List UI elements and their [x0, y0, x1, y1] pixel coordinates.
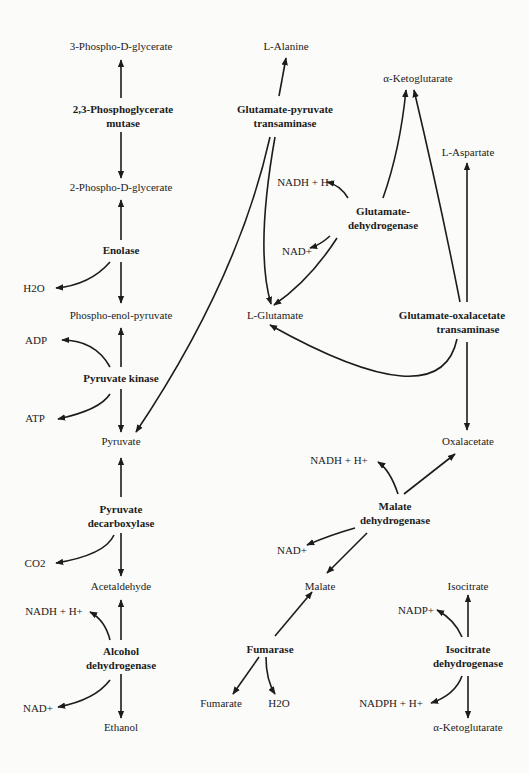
enzyme-fumarase: Fumarase: [246, 643, 293, 656]
compound-2-phosphoglycerate: 2-Phospho-D-glycerate: [70, 181, 173, 194]
compound-ethanol: Ethanol: [104, 721, 138, 734]
compound-nad-gdh: NAD+: [282, 245, 312, 258]
compound-l-glutamate: L-Glutamate: [247, 309, 303, 322]
compound-nadh: NADH + H+: [25, 605, 83, 618]
enzyme-pyruvate-decarboxylase-line2: decarboxylase: [88, 517, 155, 530]
compound-fumarate: Fumarate: [200, 697, 242, 710]
compound-h2o: H2O: [23, 282, 44, 295]
enzyme-glutamate-dehydrogenase-line1: Glutamate-: [356, 205, 410, 218]
compound-nadph: NADPH + H+: [359, 697, 423, 710]
enzyme-glutamate-pyruvate-transaminase-line2: transaminase: [254, 117, 317, 130]
compound-oxalacetate: Oxalacetate: [442, 435, 494, 448]
enzyme-glutamate-oxalacetate-transaminase-line2: transaminase: [437, 323, 500, 336]
enzyme-pyruvate-kinase: Pyruvate kinase: [83, 372, 158, 385]
compound-co2: CO2: [25, 557, 46, 570]
enzyme-phosphoglycerate-mutase-line2: mutase: [106, 117, 140, 130]
compound-malate: Malate: [305, 580, 336, 593]
enzyme-glutamate-pyruvate-transaminase-line1: Glutamate-pyruvate: [237, 103, 333, 116]
compound-l-aspartate: L-Aspartate: [442, 146, 495, 159]
enzyme-phosphoglycerate-mutase-line1: 2,3-Phosphoglycerate: [73, 103, 174, 116]
enzyme-pyruvate-decarboxylase-line1: Pyruvate: [100, 503, 143, 516]
compound-atp: ATP: [25, 412, 45, 425]
compound-3-phosphoglycerate: 3-Phospho-D-glycerate: [70, 40, 173, 53]
enzyme-isocitrate-dehydrogenase-line1: Isocitrate: [446, 643, 491, 656]
enzyme-enolase: Enolase: [103, 244, 140, 257]
compound-pyruvate: Pyruvate: [101, 435, 140, 448]
enzyme-glutamate-oxalacetate-transaminase-line1: Glutamate-oxalacetate: [399, 309, 505, 322]
compound-nadh-mdh: NADH + H+: [310, 454, 368, 467]
compound-phosphoenolpyruvate: Phospho-enol-pyruvate: [70, 309, 173, 322]
compound-nadp: NADP+: [398, 604, 434, 617]
enzyme-malate-dehydrogenase-line2: dehydrogenase: [360, 514, 430, 527]
compound-isocitrate: Isocitrate: [448, 580, 489, 593]
compound-alpha-ketoglutarate-top: α-Ketoglutarate: [383, 72, 452, 85]
compound-nad: NAD+: [23, 702, 53, 715]
enzyme-malate-dehydrogenase-line1: Malate: [379, 500, 412, 513]
enzyme-alcohol-dehydrogenase-line2: dehydrogenase: [86, 659, 156, 672]
enzyme-alcohol-dehydrogenase-line1: Alcohol: [103, 645, 139, 658]
pathway-diagram: 3-Phospho-D-glycerate 2,3-Phosphoglycera…: [0, 0, 529, 773]
compound-alpha-ketoglutarate-bottom: α-Ketoglutarate: [433, 721, 502, 734]
compound-nad-mdh: NAD+: [277, 544, 307, 557]
compound-l-alanine: L-Alanine: [263, 40, 308, 53]
enzyme-glutamate-dehydrogenase-line2: dehydrogenase: [348, 219, 418, 232]
compound-h2o-fumarase: H2O: [268, 697, 289, 710]
compound-acetaldehyde: Acetaldehyde: [91, 580, 151, 593]
compound-adp: ADP: [25, 334, 47, 347]
enzyme-isocitrate-dehydrogenase-line2: dehydrogenase: [433, 657, 503, 670]
compound-nadh-gdh: NADH + H+: [277, 176, 335, 189]
